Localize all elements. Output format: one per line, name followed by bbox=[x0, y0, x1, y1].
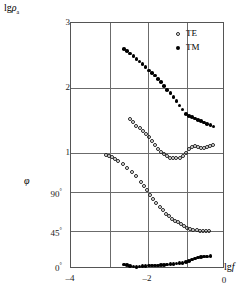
data-point bbox=[130, 170, 134, 174]
data-point bbox=[211, 143, 215, 147]
y-axis-label-rho-subscript: a bbox=[17, 9, 20, 15]
ytick-label-90deg: 90° bbox=[36, 187, 62, 199]
ytick-45-value: 45 bbox=[51, 228, 60, 238]
data-point bbox=[125, 166, 129, 170]
gridline-horizontal-1 bbox=[71, 153, 223, 154]
data-point bbox=[148, 193, 152, 197]
legend-item-tm: TM bbox=[172, 40, 218, 54]
data-point bbox=[134, 174, 138, 178]
ytick-label-45deg: 45° bbox=[36, 226, 62, 238]
data-point bbox=[139, 180, 143, 184]
ytick-45-degree-sign: ° bbox=[60, 227, 62, 233]
filled-circle-icon bbox=[172, 42, 184, 53]
legend-item-te: TE bbox=[172, 26, 218, 40]
data-point bbox=[184, 151, 188, 155]
x-axis-label-f-symbol: f bbox=[232, 261, 235, 272]
y-axis-label-resistivity: lgρa bbox=[4, 3, 19, 17]
data-point bbox=[178, 104, 182, 108]
ytick-90-value: 90 bbox=[51, 189, 60, 199]
data-point bbox=[209, 254, 213, 258]
gridline-horizontal-90deg bbox=[71, 192, 223, 193]
xtick-label-minus4: –4 bbox=[57, 274, 83, 283]
gridline-horizontal-2 bbox=[71, 88, 223, 89]
ytick-label-3: 3 bbox=[44, 18, 70, 27]
magnetotelluric-sounding-chart: lgρa φ lgf 3 2 1 90° 45° 0° –4 –2 0 TE bbox=[0, 0, 245, 295]
ytick-label-0deg: 0° bbox=[36, 261, 62, 273]
y-axis-label-phase: φ bbox=[24, 176, 30, 186]
data-point bbox=[121, 162, 125, 166]
data-point bbox=[181, 108, 185, 112]
x-axis-label-lg: lg bbox=[224, 261, 232, 272]
plot-area bbox=[70, 22, 224, 268]
data-point bbox=[175, 99, 179, 103]
open-circle-icon bbox=[172, 28, 184, 39]
legend: TE TM bbox=[172, 26, 218, 54]
legend-label-te: TE bbox=[184, 28, 197, 39]
x-axis-label: lgf bbox=[224, 262, 235, 272]
ytick-0-degree-sign: ° bbox=[60, 262, 62, 268]
legend-label-tm: TM bbox=[184, 42, 200, 53]
data-point bbox=[212, 125, 216, 129]
data-point bbox=[116, 159, 120, 163]
ytick-label-2: 2 bbox=[44, 83, 70, 92]
data-point bbox=[207, 229, 211, 233]
ytick-90-degree-sign: ° bbox=[60, 188, 62, 194]
xtick-label-0: 0 bbox=[211, 276, 237, 285]
ytick-label-1: 1 bbox=[44, 148, 70, 157]
y-axis-label-lg: lg bbox=[4, 2, 12, 13]
xtick-label-minus2: –2 bbox=[134, 274, 160, 283]
